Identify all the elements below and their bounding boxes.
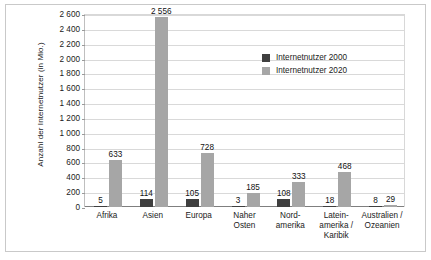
bar-value-label: 18 (325, 196, 334, 205)
gridline (85, 163, 404, 164)
legend-swatch-icon (262, 67, 270, 75)
gridline (85, 45, 404, 46)
y-axis-tick-label: 800 (10, 143, 80, 152)
gridline (85, 89, 404, 90)
gridline (85, 15, 404, 16)
axis-baseline (85, 206, 404, 207)
bar (338, 172, 351, 207)
bar (94, 206, 107, 207)
y-axis-tick-label: 1 000 (10, 128, 80, 137)
bar-value-label: 3 (236, 196, 241, 205)
bar (292, 182, 305, 207)
y-axis-tick-label: 1 400 (10, 99, 80, 108)
y-axis-tick-mark (82, 30, 85, 31)
legend-swatch-icon (262, 54, 270, 62)
y-axis-tick-mark (82, 119, 85, 120)
x-axis-category-label: Europa (185, 211, 211, 221)
gridline (85, 149, 404, 150)
gridline (85, 60, 404, 61)
gridline (85, 134, 404, 135)
y-axis-tick-label: 1 200 (10, 113, 80, 122)
y-axis-tick-label: 200 (10, 188, 80, 197)
plot-area: 56331142 556105728318510833318468829 (84, 14, 405, 207)
gridline (85, 104, 404, 105)
bar (247, 193, 260, 207)
bar (201, 153, 214, 207)
bar-value-label: 185 (246, 183, 260, 192)
y-axis-tick-mark (82, 178, 85, 179)
bar (109, 160, 122, 207)
bar (155, 17, 168, 207)
y-axis-tick-label: 600 (10, 158, 80, 167)
y-axis-tick-mark (82, 89, 85, 90)
legend-item-series-1: Internetnutzer 2020 (262, 64, 347, 77)
y-axis-tick-label: 1 800 (10, 69, 80, 78)
x-axis-category-label: Asien (143, 211, 163, 221)
y-axis-tick-label: 2 600 (10, 10, 80, 19)
bar (186, 199, 199, 207)
y-axis-tick-label: 2 000 (10, 54, 80, 63)
bar (323, 206, 336, 207)
bar-value-label: 105 (185, 189, 199, 198)
y-axis-tick-mark (82, 15, 85, 16)
y-axis-tick-mark (82, 74, 85, 75)
gridline (85, 74, 404, 75)
y-axis-tick-label: 2 200 (10, 39, 80, 48)
legend-label: Internetnutzer 2000 (276, 53, 347, 62)
x-axis-category-label: Naher Osten (233, 211, 255, 231)
y-axis-tick-mark (82, 60, 85, 61)
x-axis-category-label: Afrika (96, 211, 117, 221)
y-axis-tick-mark (82, 208, 85, 209)
x-axis-category-label: Australien / Ozeanien (362, 211, 403, 231)
bar (369, 206, 382, 207)
bar-value-label: 108 (277, 189, 291, 198)
bar (140, 199, 153, 207)
y-axis-tick-mark (82, 134, 85, 135)
x-axis-category-label: Latein- amerika / Karibik (319, 211, 353, 241)
bar-value-label: 333 (292, 172, 306, 181)
bar (277, 199, 290, 207)
gridline (85, 30, 404, 31)
gridline (85, 119, 404, 120)
y-axis-tick-label: 0 (10, 203, 80, 212)
y-axis-tick-mark (82, 104, 85, 105)
y-axis-tick-mark (82, 193, 85, 194)
y-axis-tick-mark (82, 163, 85, 164)
y-axis-tick-mark (82, 149, 85, 150)
chart-figure: Anzahl der Internetnutzer (in Mio.) 0200… (0, 0, 431, 260)
bar (384, 205, 397, 207)
bar (232, 206, 245, 207)
bar-value-label: 633 (109, 150, 123, 159)
bar-value-label: 728 (200, 143, 214, 152)
bar-value-label: 2 556 (151, 7, 172, 16)
bar-value-label: 8 (373, 196, 378, 205)
chart-legend: Internetnutzer 2000 Internetnutzer 2020 (262, 51, 347, 77)
legend-label: Internetnutzer 2020 (276, 66, 347, 75)
legend-item-series-0: Internetnutzer 2000 (262, 51, 347, 64)
bar-value-label: 29 (386, 195, 395, 204)
y-axis-tick-label: 1 600 (10, 84, 80, 93)
y-axis-tick-label: 400 (10, 173, 80, 182)
y-axis-tick-label: 2 400 (10, 24, 80, 33)
y-axis-tick-mark (82, 45, 85, 46)
bar-value-label: 5 (98, 196, 103, 205)
gridline (85, 178, 404, 179)
x-axis-category-label: Nord- amerika (276, 211, 305, 231)
bar-value-label: 114 (140, 189, 153, 198)
bar-value-label: 468 (338, 162, 352, 171)
gridline (85, 193, 404, 194)
